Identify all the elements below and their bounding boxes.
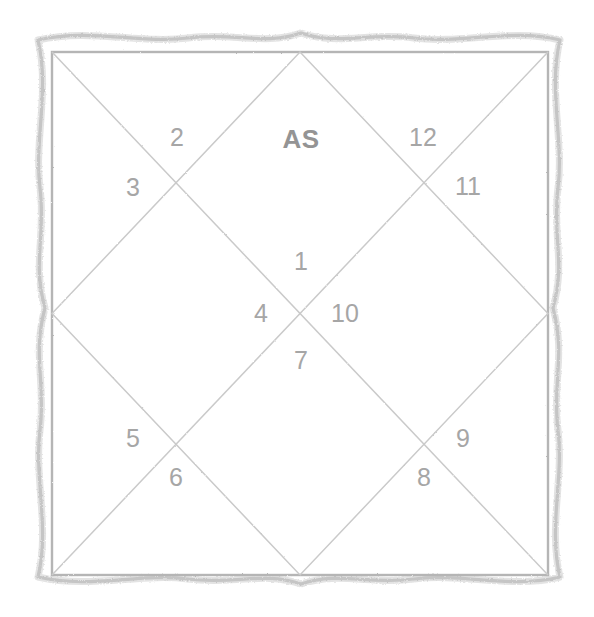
house-label-7: 7	[294, 348, 308, 373]
house-label-11: 11	[455, 174, 481, 199]
outer-wavy-frame	[38, 33, 560, 584]
house-label-9: 9	[456, 426, 470, 451]
kundali-diagram-svg	[0, 0, 594, 617]
house-label-12: 12	[409, 125, 437, 150]
kundali-chart: AS 1 2 3 4 5 6 7 8 9 10 11 12	[0, 0, 594, 617]
house-label-1: 1	[294, 249, 308, 274]
ascendant-label: AS	[282, 126, 319, 152]
house-label-10: 10	[331, 301, 359, 326]
house-label-4: 4	[254, 301, 268, 326]
house-label-5: 5	[126, 426, 140, 451]
house-label-8: 8	[417, 465, 431, 490]
house-label-6: 6	[169, 465, 183, 490]
house-label-3: 3	[126, 175, 140, 200]
house-label-2: 2	[170, 125, 184, 150]
